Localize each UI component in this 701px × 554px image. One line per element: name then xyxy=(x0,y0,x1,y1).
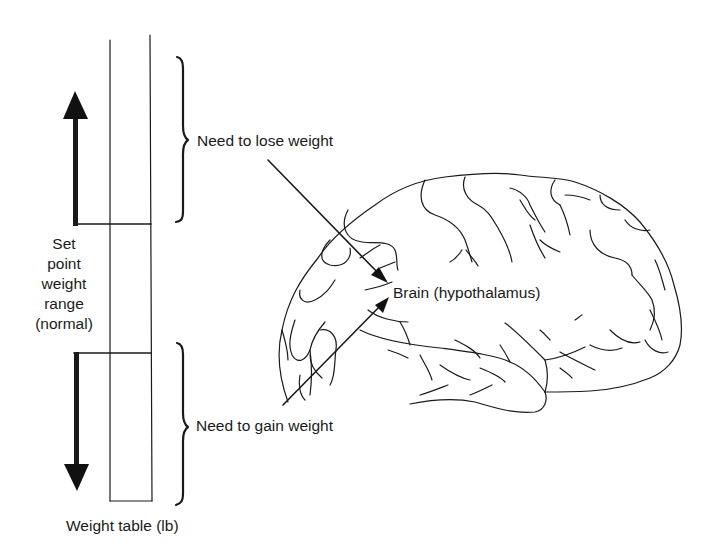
set-point-range-label: Set point weight range (normal) xyxy=(14,234,114,334)
set-point-line-5: (normal) xyxy=(14,314,114,334)
arrow-up-icon xyxy=(63,91,88,226)
set-point-line-1: Set xyxy=(14,234,114,254)
set-point-line-4: range xyxy=(14,294,114,314)
arrow-down-icon xyxy=(64,352,89,491)
lower-brace-icon xyxy=(176,343,188,505)
set-point-line-3: weight xyxy=(14,274,114,294)
set-point-line-2: point xyxy=(14,254,114,274)
set-point-diagram: Need to lose weight Brain (hypothalamus)… xyxy=(0,0,701,554)
upper-brace-icon xyxy=(176,57,188,222)
weight-table-right-edge xyxy=(150,35,152,501)
brain-label: Brain (hypothalamus) xyxy=(393,285,540,301)
gain-weight-arrow-icon xyxy=(283,297,389,405)
weight-table-label: Weight table (lb) xyxy=(66,518,179,534)
gain-weight-label: Need to gain weight xyxy=(196,418,333,434)
lose-weight-label: Need to lose weight xyxy=(197,133,333,149)
